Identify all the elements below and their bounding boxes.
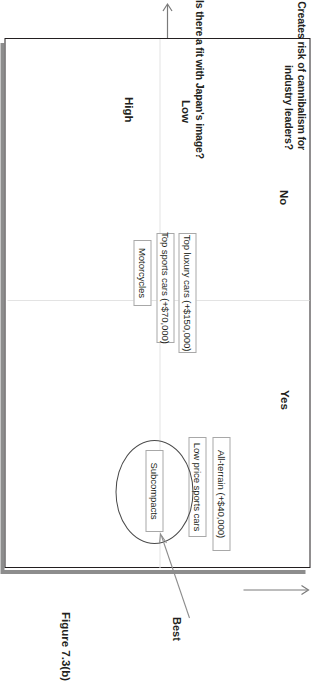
row-axis-direction-arrow [160, 0, 174, 40]
item-box-subcompacts: Subcompacts [145, 450, 163, 532]
column-header-no: No [277, 190, 289, 205]
row-label-high: High [122, 97, 134, 123]
column-header-yes: Yes [278, 390, 290, 410]
item-box-motorcycles: Motorcycles [133, 240, 151, 306]
item-box-top-luxury-cars: Top luxury cars (+$150,000) [178, 233, 196, 353]
figure-caption: Figure 7.3(b) [59, 612, 71, 681]
item-box-all-terrain: All-terrain (+$40,000) [212, 437, 230, 551]
column-axis-title: Creates risk of cannibalism for industry… [281, 0, 307, 150]
item-box-low-price-sports-cars: Low price sports cars [188, 437, 206, 537]
frame-shadow-bottom [0, 43, 4, 574]
frame-shadow-right [2, 570, 305, 574]
row-axis-title: Is there a fit with Japan's image? [192, 0, 205, 150]
best-annotation-label: Best [170, 617, 182, 641]
item-box-top-sports-cars: Top sports cars (+$70,000) [156, 233, 174, 343]
best-leader-line [157, 528, 191, 620]
column-axis-direction-arrow [243, 580, 313, 600]
row-label-low: Low [179, 100, 191, 123]
